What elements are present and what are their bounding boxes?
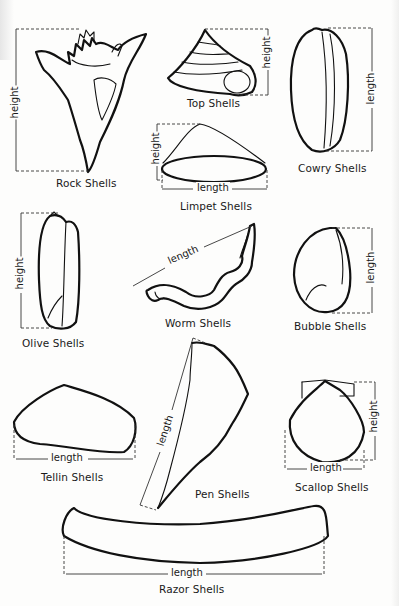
label-worm-shells: Worm Shells <box>165 317 231 329</box>
worm-shell-drawing <box>147 224 255 309</box>
label-limpet-shells: Limpet Shells <box>180 200 252 212</box>
rock-shell-drawing <box>36 30 146 172</box>
cowry-shell-drawing <box>291 29 348 152</box>
dim-top-height: height <box>261 36 272 70</box>
label-scallop-shells: Scallop Shells <box>295 481 369 493</box>
label-rock-shells: Rock Shells <box>56 177 117 189</box>
dim-scallop-length: length <box>309 462 343 473</box>
label-olive-shells: Olive Shells <box>22 337 84 349</box>
dim-olive-height: height <box>14 257 25 291</box>
label-bubble-shells: Bubble Shells <box>294 320 366 332</box>
tellin-shell-drawing <box>14 385 136 452</box>
dim-scallop-height: height <box>368 400 379 434</box>
label-pen-shells: Pen Shells <box>195 488 250 500</box>
dim-cowry-length: length <box>365 72 376 106</box>
olive-shell-drawing <box>39 212 80 329</box>
limpet-shell-drawing <box>162 124 266 182</box>
dim-razor-length: length <box>170 567 204 578</box>
dim-limpet-length: length <box>196 182 230 193</box>
scallop-shell-drawing <box>290 380 364 462</box>
dim-bubble-length: length <box>365 251 376 285</box>
dim-tellin-length: length <box>50 452 84 463</box>
dim-rock-height: height <box>9 86 20 120</box>
bubble-shell-drawing <box>294 228 350 312</box>
label-cowry-shells: Cowry Shells <box>298 162 367 174</box>
razor-shell-drawing <box>63 506 328 563</box>
dim-limpet-height: height <box>150 132 161 166</box>
label-top-shells: Top Shells <box>187 97 240 109</box>
label-razor-shells: Razor Shells <box>159 583 224 595</box>
shell-illustrations <box>0 0 399 606</box>
top-shell-drawing <box>168 30 256 95</box>
label-tellin-shells: Tellin Shells <box>41 471 103 483</box>
